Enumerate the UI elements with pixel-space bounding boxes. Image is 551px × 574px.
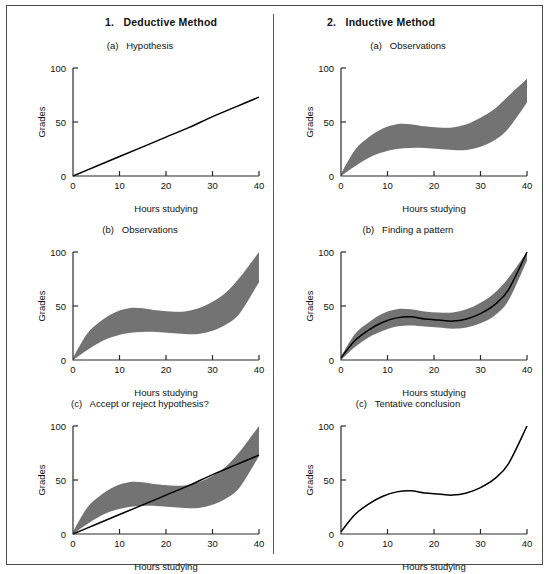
y-axis-label: Grades	[36, 290, 47, 321]
y-axis-label: Grades	[304, 464, 315, 495]
plot-panel-2c: 010203040050100Hours studyingGrades	[279, 416, 537, 574]
y-tick-label: 0	[61, 355, 66, 366]
x-axis-label: Hours studying	[402, 203, 465, 214]
y-tick-label: 50	[55, 301, 66, 312]
plot-panel-1a: 010203040050100Hours studyingGrades	[11, 58, 269, 220]
panel-subtitle: (a) Hypothesis	[11, 40, 269, 51]
x-tick-label: 30	[207, 538, 218, 549]
band-observations-band	[73, 252, 259, 360]
line-conclusion-curve	[341, 426, 527, 532]
y-tick-label: 50	[323, 301, 334, 312]
x-axis-label: Hours studying	[134, 387, 197, 398]
column-divider	[273, 14, 274, 554]
band-observations-band	[341, 79, 527, 176]
y-tick-label: 50	[55, 475, 66, 486]
x-tick-label: 20	[161, 538, 172, 549]
y-tick-label: 50	[323, 475, 334, 486]
plot-panel-2b: 010203040050100Hours studyingGrades	[279, 242, 537, 404]
x-tick-label: 10	[382, 364, 393, 375]
plot-panel-2a: 010203040050100Hours studyingGrades	[279, 58, 537, 220]
line-hypothesis	[73, 97, 259, 176]
x-axis-label: Hours studying	[402, 387, 465, 398]
column-heading-deductive: 1. Deductive Method	[105, 16, 217, 28]
x-tick-label: 20	[161, 180, 172, 191]
x-tick-label: 40	[522, 180, 533, 191]
x-tick-label: 30	[207, 364, 218, 375]
x-tick-label: 30	[475, 364, 486, 375]
panel-2b: (b) Finding a pattern010203040050100Hour…	[279, 224, 537, 404]
y-tick-label: 0	[329, 171, 334, 182]
x-tick-label: 40	[254, 364, 265, 375]
x-tick-label: 10	[114, 364, 125, 375]
x-tick-label: 0	[70, 538, 75, 549]
y-axis-label: Grades	[36, 464, 47, 495]
x-tick-label: 40	[522, 364, 533, 375]
x-tick-label: 20	[161, 364, 172, 375]
x-tick-label: 20	[429, 364, 440, 375]
x-tick-label: 20	[429, 180, 440, 191]
x-tick-label: 30	[207, 180, 218, 191]
x-tick-label: 0	[338, 180, 343, 191]
x-tick-label: 10	[114, 180, 125, 191]
y-tick-label: 100	[50, 63, 66, 74]
plot-panel-1c: 010203040050100Hours studyingGrades	[11, 416, 269, 574]
y-tick-label: 100	[318, 63, 334, 74]
x-tick-label: 0	[338, 538, 343, 549]
x-tick-label: 40	[254, 538, 265, 549]
panel-subtitle: (c) Tentative conclusion	[279, 398, 537, 409]
axis-spines	[341, 426, 527, 534]
y-axis-label: Grades	[304, 290, 315, 321]
y-tick-label: 0	[61, 529, 66, 540]
y-tick-label: 50	[55, 117, 66, 128]
y-axis-label: Grades	[36, 106, 47, 137]
panel-subtitle: (c) Accept or reject hypothesis?	[11, 398, 269, 409]
y-tick-label: 100	[318, 421, 334, 432]
x-tick-label: 40	[254, 180, 265, 191]
panel-2a: (a) Observations010203040050100Hours stu…	[279, 40, 537, 220]
x-tick-label: 30	[475, 180, 486, 191]
y-axis-label: Grades	[304, 106, 315, 137]
y-tick-label: 100	[50, 247, 66, 258]
panel-subtitle: (b) Finding a pattern	[279, 224, 537, 235]
panel-2c: (c) Tentative conclusion010203040050100H…	[279, 398, 537, 574]
x-tick-label: 20	[429, 538, 440, 549]
x-tick-label: 30	[475, 538, 486, 549]
y-tick-label: 0	[329, 529, 334, 540]
panel-subtitle: (a) Observations	[279, 40, 537, 51]
x-axis-label: Hours studying	[134, 203, 197, 214]
x-axis-label: Hours studying	[402, 561, 465, 572]
y-tick-label: 100	[50, 421, 66, 432]
y-tick-label: 0	[61, 171, 66, 182]
plot-panel-1b: 010203040050100Hours studyingGrades	[11, 242, 269, 404]
panel-1a: (a) Hypothesis010203040050100Hours study…	[11, 40, 269, 220]
y-tick-label: 0	[329, 355, 334, 366]
panel-1c: (c) Accept or reject hypothesis?01020304…	[11, 398, 269, 574]
y-tick-label: 100	[318, 247, 334, 258]
panel-1b: (b) Observations010203040050100Hours stu…	[11, 224, 269, 404]
band-observations-band	[73, 426, 259, 534]
band-observations-band	[341, 252, 527, 360]
column-heading-inductive: 2. Inductive Method	[327, 16, 435, 28]
x-tick-label: 10	[382, 180, 393, 191]
x-tick-label: 10	[114, 538, 125, 549]
x-tick-label: 10	[382, 538, 393, 549]
x-tick-label: 0	[70, 180, 75, 191]
y-tick-label: 50	[323, 117, 334, 128]
x-tick-label: 40	[522, 538, 533, 549]
x-axis-label: Hours studying	[134, 561, 197, 572]
x-tick-label: 0	[338, 364, 343, 375]
figure-frame: 1. Deductive Method 2. Inductive Method …	[6, 5, 543, 565]
axis-spines	[73, 68, 259, 176]
panel-subtitle: (b) Observations	[11, 224, 269, 235]
x-tick-label: 0	[70, 364, 75, 375]
